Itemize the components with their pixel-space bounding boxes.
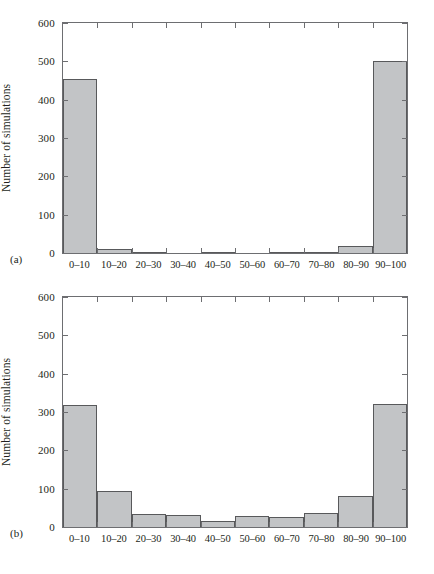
y-axis-tick-right bbox=[402, 100, 407, 101]
bar-slot bbox=[63, 297, 97, 527]
x-axis-tick-label: 40–50 bbox=[200, 534, 235, 545]
bar-slot bbox=[201, 23, 235, 253]
x-axis-tick-top bbox=[269, 23, 270, 28]
bar-slot bbox=[97, 23, 131, 253]
y-axis-tick bbox=[63, 489, 68, 490]
x-axis-tick bbox=[201, 248, 202, 253]
x-axis-tick-top bbox=[97, 23, 98, 28]
bar-80-90 bbox=[338, 496, 372, 527]
y-axis-tick-right bbox=[402, 374, 407, 375]
bar-70-80 bbox=[304, 513, 338, 527]
y-axis-tick bbox=[63, 253, 68, 254]
y-axis-tick-label: 200 bbox=[38, 445, 55, 456]
y-axis-tick-label: 400 bbox=[38, 368, 55, 379]
y-axis-tick-label: 0 bbox=[49, 522, 55, 533]
x-axis-tick bbox=[97, 248, 98, 253]
x-axis-tick-top bbox=[304, 297, 305, 302]
x-axis-tick bbox=[338, 248, 339, 253]
x-axis-tick bbox=[166, 248, 167, 253]
x-axis-tick-label: 70–80 bbox=[304, 534, 339, 545]
y-axis-tick-right bbox=[402, 489, 407, 490]
x-axis-tick-label: 0–10 bbox=[62, 534, 97, 545]
x-axis-tick bbox=[373, 522, 374, 527]
plot-area-b: 0100200300400500600 bbox=[62, 296, 408, 528]
y-axis-tick-label: 500 bbox=[38, 56, 55, 67]
x-axis-tick-label: 10–20 bbox=[97, 260, 132, 271]
x-axis-tick bbox=[235, 248, 236, 253]
bar-slot bbox=[338, 297, 372, 527]
y-axis-tick-right bbox=[402, 253, 407, 254]
x-axis-tick-label: 20–30 bbox=[131, 260, 166, 271]
y-axis-title-a: Number of simulations bbox=[0, 22, 14, 254]
x-axis-tick-top bbox=[235, 23, 236, 28]
y-axis-tick-label: 100 bbox=[38, 209, 55, 220]
y-axis-tick-label: 600 bbox=[38, 18, 55, 29]
bar-slot bbox=[269, 297, 303, 527]
y-axis-tick-right bbox=[402, 138, 407, 139]
y-axis-tick-label: 0 bbox=[49, 248, 55, 259]
x-axis-tick-top bbox=[166, 23, 167, 28]
x-axis-tick-top bbox=[338, 297, 339, 302]
x-axis-tick-top bbox=[235, 297, 236, 302]
bar-10-20 bbox=[97, 249, 131, 253]
x-axis-tick bbox=[304, 248, 305, 253]
bar-slot bbox=[132, 23, 166, 253]
bar-slot bbox=[235, 297, 269, 527]
y-axis-tick-right bbox=[402, 527, 407, 528]
figure-two-histograms: Number of simulations 010020030040050060… bbox=[0, 0, 434, 574]
bar-40-50 bbox=[201, 252, 235, 253]
y-axis-tick-label: 400 bbox=[38, 94, 55, 105]
y-axis-tick bbox=[63, 215, 68, 216]
bar-slot bbox=[63, 23, 97, 253]
panel-label-a: (a) bbox=[10, 254, 22, 265]
x-axis-tick-label: 30–40 bbox=[166, 534, 201, 545]
bar-90-100 bbox=[373, 61, 407, 253]
bar-slot bbox=[269, 23, 303, 253]
x-axis-tick bbox=[201, 522, 202, 527]
x-axis-tick-label: 60–70 bbox=[270, 260, 305, 271]
y-axis-tick-right bbox=[402, 215, 407, 216]
bar-20-30 bbox=[132, 252, 166, 253]
x-axis-tick bbox=[166, 522, 167, 527]
y-axis-tick bbox=[63, 450, 68, 451]
bar-slot bbox=[201, 297, 235, 527]
y-axis-tick bbox=[63, 335, 68, 336]
bar-series-a bbox=[63, 23, 407, 253]
bar-0-10 bbox=[63, 79, 97, 253]
panel-a: Number of simulations 010020030040050060… bbox=[0, 8, 434, 280]
x-axis-tick-label: 80–90 bbox=[339, 534, 374, 545]
y-axis-tick-right bbox=[402, 23, 407, 24]
y-axis-tick bbox=[63, 412, 68, 413]
y-axis-tick-label: 300 bbox=[38, 133, 55, 144]
y-axis-tick bbox=[63, 100, 68, 101]
y-axis-tick-right bbox=[402, 297, 407, 298]
y-axis-tick-right bbox=[402, 176, 407, 177]
bar-90-100 bbox=[373, 404, 407, 527]
x-axis-tick-top bbox=[304, 23, 305, 28]
bar-80-90 bbox=[338, 246, 372, 253]
x-axis-tick bbox=[132, 522, 133, 527]
x-axis-tick-top bbox=[373, 297, 374, 302]
y-axis-tick bbox=[63, 176, 68, 177]
bar-slot bbox=[132, 297, 166, 527]
x-axis-tick-label: 90–100 bbox=[373, 260, 408, 271]
x-axis-tick bbox=[235, 522, 236, 527]
x-axis-tick bbox=[97, 522, 98, 527]
x-axis-tick-top bbox=[201, 297, 202, 302]
bar-60-70 bbox=[269, 517, 303, 527]
y-axis-tick-label: 300 bbox=[38, 407, 55, 418]
x-axis-tick-label: 60–70 bbox=[270, 534, 305, 545]
x-axis-tick bbox=[269, 248, 270, 253]
x-axis-tick-label: 50–60 bbox=[235, 260, 270, 271]
y-axis-tick bbox=[63, 138, 68, 139]
y-axis-tick bbox=[63, 23, 68, 24]
x-axis-tick-label: 20–30 bbox=[131, 534, 166, 545]
bar-20-30 bbox=[132, 514, 166, 527]
bar-30-40 bbox=[166, 515, 200, 527]
x-axis-tick-label: 80–90 bbox=[339, 260, 374, 271]
bar-slot bbox=[166, 297, 200, 527]
bar-40-50 bbox=[201, 521, 235, 527]
y-axis-tick-label: 200 bbox=[38, 171, 55, 182]
bar-slot bbox=[338, 23, 372, 253]
bar-slot bbox=[235, 23, 269, 253]
